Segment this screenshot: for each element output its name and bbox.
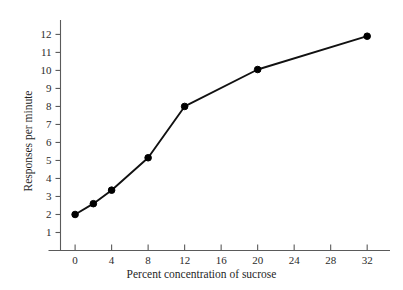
x-tick-label: 32 — [362, 254, 373, 266]
chart-plot-area: 123456789101112 048121620242832 Response… — [0, 0, 403, 290]
data-series-line — [75, 36, 367, 214]
x-axis: 048121620242832 — [49, 245, 391, 266]
y-tick-label: 5 — [46, 154, 52, 166]
x-tick-label: 20 — [252, 254, 264, 266]
data-point-markers — [72, 33, 371, 218]
y-tick-label: 4 — [46, 172, 52, 184]
y-tick-label: 3 — [46, 190, 52, 202]
y-tick-label: 12 — [41, 28, 52, 40]
y-tick-label: 2 — [46, 208, 52, 220]
y-tick-label: 11 — [41, 46, 52, 58]
y-tick-label: 6 — [46, 136, 52, 148]
chart-canvas: 123456789101112 048121620242832 — [0, 0, 403, 290]
data-point-marker — [72, 211, 79, 218]
y-tick-label: 9 — [46, 82, 52, 94]
x-tick-label: 4 — [109, 254, 115, 266]
y-tick-label: 1 — [46, 226, 52, 238]
figure-container: 123456789101112 048121620242832 Response… — [0, 0, 403, 290]
x-tick-label: 12 — [179, 254, 190, 266]
data-point-marker — [108, 187, 115, 194]
y-tick-label: 8 — [46, 100, 52, 112]
data-point-marker — [364, 33, 371, 40]
x-tick-label: 8 — [145, 254, 151, 266]
y-axis-title: Responses per minute — [22, 51, 34, 231]
data-point-marker — [145, 154, 152, 161]
x-axis-title: Percent concentration of sucrose — [0, 268, 403, 280]
x-tick-label: 16 — [216, 254, 228, 266]
x-tick-label: 24 — [289, 254, 301, 266]
data-point-marker — [254, 66, 261, 73]
x-tick-label: 28 — [325, 254, 337, 266]
data-point-marker — [90, 200, 97, 207]
y-tick-label: 10 — [41, 64, 53, 76]
y-tick-label: 7 — [46, 118, 52, 130]
y-axis: 123456789101112 — [41, 20, 61, 251]
data-point-marker — [181, 103, 188, 110]
x-tick-label: 0 — [72, 254, 78, 266]
